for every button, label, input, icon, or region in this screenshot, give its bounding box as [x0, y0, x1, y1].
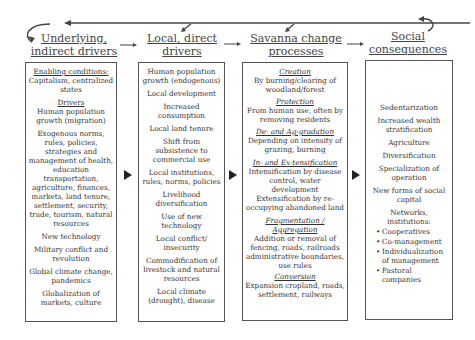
header-local-drivers: Local, direct drivers [138, 32, 226, 58]
enabling-conditions-text: Capitalism, centralized states [28, 76, 114, 94]
process-text: Intensification by disease control, wate… [245, 167, 345, 212]
consequence-item: New forms of social capital [368, 186, 450, 204]
flow-arrow-icon [124, 170, 132, 180]
process-title: Protection [245, 97, 345, 106]
process-text: From human use, often by removing reside… [245, 106, 345, 124]
consequence-item: Specialization of operation [368, 164, 450, 182]
header-savanna-processes: Savanna change processes [244, 32, 348, 58]
process-text: Addition or removal of fencing, roads, r… [245, 234, 345, 270]
driver-item: Globalization of markets, culture [28, 289, 114, 307]
consequence-item: Agriculture [368, 138, 450, 147]
driver-item: New technology [28, 232, 114, 241]
process-title: Conversion [245, 272, 345, 281]
process-text: Expansion cropland, roads, settlement, r… [245, 281, 345, 299]
local-driver-item: Local development [141, 89, 222, 98]
process-title: In- and Ex-tensification [245, 158, 345, 167]
network-item: Cooperatives [376, 227, 450, 236]
process-text: Depending on intensity of grazing, burni… [245, 136, 345, 154]
driver-item: Exogenous norms, rules, policies, strate… [28, 129, 114, 228]
header-underlying-drivers: Underlying, indirect drivers [28, 32, 120, 58]
driver-item: Human population growth (migration) [28, 107, 114, 125]
local-driver-item: Use of new technology [141, 212, 222, 230]
consequence-item: Diversification [368, 151, 450, 160]
flow-arrow-icon [352, 170, 360, 180]
process-section: Conversion Expansion cropland, roads, se… [245, 272, 345, 299]
process-title: Creation [245, 67, 345, 76]
local-driver-item: Shift from subsistence to commercial use [141, 137, 222, 164]
enabling-conditions-title: Enabling conditions: [33, 67, 108, 76]
header-line: processes [244, 45, 348, 58]
header-line: indirect drivers [28, 45, 120, 58]
network-item: Co-management [376, 237, 450, 246]
box-savanna-processes: Creation By burning/clearing of woodland… [242, 62, 348, 321]
consequence-item: Sedentarization [368, 103, 450, 112]
header-line: Social [360, 30, 456, 43]
networks-title: Networks, institutions: [368, 208, 450, 226]
process-title: Fragmentation / Aggregation [245, 216, 345, 234]
local-driver-item: Local conflict/ insecurity [141, 234, 222, 252]
process-section: In- and Ex-tensification Intensification… [245, 158, 345, 212]
box-local-drivers: Human population growth (endogenous) Loc… [138, 62, 225, 322]
local-driver-item: Local land tenure [141, 124, 222, 133]
process-section: Fragmentation / Aggregation Addition or … [245, 216, 345, 270]
local-driver-item: Commodification of livestock and natural… [141, 256, 222, 283]
process-title: De- and Ag-gradation [245, 127, 345, 136]
driver-item: Military conflict and revolution [28, 245, 114, 263]
local-driver-item: Increased consumption [141, 102, 222, 120]
local-driver-item: Local institutions, rules, norms, polici… [141, 168, 222, 186]
header-line: consequences [360, 43, 456, 56]
network-item: Individualization of management [376, 247, 450, 265]
flow-arrow-icon [229, 170, 237, 180]
header-line: Underlying, [28, 32, 120, 45]
header-line: Local, direct [138, 32, 226, 45]
process-text: By burning/clearing of woodland/forest [245, 76, 345, 94]
header-line: Savanna change [244, 32, 348, 45]
header-social-consequences: Social consequences [360, 30, 456, 56]
header-line: drivers [138, 45, 226, 58]
networks-list: Cooperatives Co-management Individualiza… [368, 227, 450, 284]
box-underlying-drivers: Enabling conditions: Capitalism, central… [25, 62, 117, 322]
process-section: Creation By burning/clearing of woodland… [245, 67, 345, 94]
process-section: De- and Ag-gradation Depending on intens… [245, 127, 345, 154]
drivers-title: Drivers [58, 98, 85, 107]
network-item: Pastoral companies [376, 266, 450, 284]
local-driver-item: Local climate (drought), disease [141, 287, 222, 305]
process-section: Protection From human use, often by remo… [245, 97, 345, 124]
driver-item: Global climate change, pandemics [28, 267, 114, 285]
consequence-item: Increased wealth stratification [368, 116, 450, 134]
local-driver-item: Livelihood diversification [141, 190, 222, 208]
local-driver-item: Human population growth (endogenous) [141, 67, 222, 85]
box-social-consequences: Sedentarization Increased wealth stratif… [365, 60, 453, 320]
